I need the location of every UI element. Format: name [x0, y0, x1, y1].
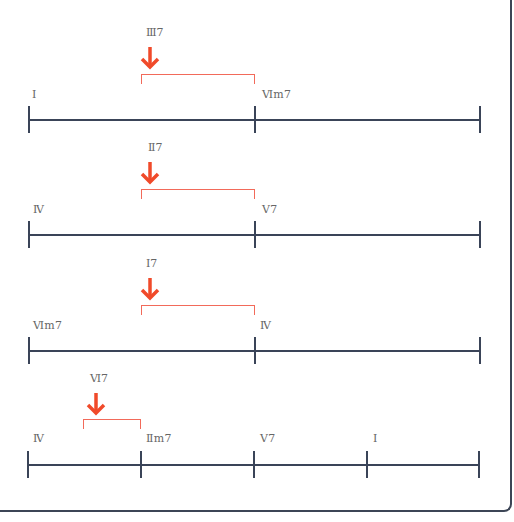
bar-tick — [254, 337, 256, 364]
chord-label: Ⅴ7 — [262, 203, 278, 216]
secondary-dominant-bracket — [141, 305, 255, 315]
arrow-down-icon — [140, 46, 160, 70]
secondary-dominant-label: Ⅵ7 — [90, 372, 108, 385]
bar-tick — [28, 221, 30, 248]
bar-tick — [479, 337, 481, 364]
secondary-dominant-label: Ⅱ7 — [148, 141, 162, 154]
chord-label: Ⅳ — [260, 319, 271, 332]
progression-row-1: Ⅲ7 I Ⅵm7 — [0, 20, 514, 140]
chord-label: Ⅱm7 — [146, 432, 172, 445]
bar-tick — [479, 221, 481, 248]
bar-tick — [254, 221, 256, 248]
chord-label: Ⅵm7 — [262, 88, 291, 101]
bar-tick — [254, 106, 256, 133]
chord-label: Ⅳ — [33, 203, 44, 216]
secondary-dominant-label: Ⅰ7 — [146, 257, 157, 270]
bar-tick — [27, 451, 29, 478]
secondary-dominant-bracket — [83, 419, 141, 429]
progression-row-4: Ⅵ7 Ⅳ Ⅱm7 Ⅴ7 I — [0, 366, 514, 486]
chord-label: Ⅳ — [33, 432, 44, 445]
chord-label: I — [32, 88, 37, 101]
arrow-down-icon — [140, 161, 160, 185]
bar-tick — [366, 451, 368, 478]
bar-tick — [140, 451, 142, 478]
bar-tick — [478, 451, 480, 478]
chord-label: Ⅵm7 — [33, 319, 62, 332]
secondary-dominant-bracket — [141, 189, 255, 199]
bar-tick — [28, 337, 30, 364]
chord-label: I — [373, 432, 378, 445]
arrow-down-icon — [86, 392, 106, 416]
bar-tick — [253, 451, 255, 478]
bar-tick — [28, 106, 30, 133]
progression-row-2: Ⅱ7 Ⅳ Ⅴ7 — [0, 135, 514, 255]
progression-row-3: Ⅰ7 Ⅵm7 Ⅳ — [0, 251, 514, 371]
secondary-dominant-label: Ⅲ7 — [146, 26, 164, 39]
secondary-dominant-bracket — [141, 74, 255, 84]
bar-tick — [479, 106, 481, 133]
chord-label: Ⅴ7 — [260, 432, 276, 445]
arrow-down-icon — [140, 277, 160, 301]
